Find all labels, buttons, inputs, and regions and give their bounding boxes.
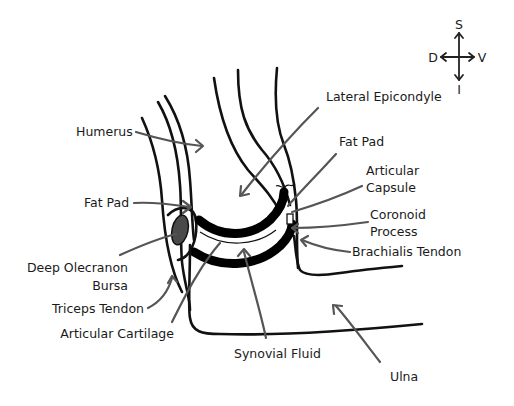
label-articular-capsule-line2: Capsule: [366, 180, 416, 195]
lateral-epicondyle-pointer: [242, 108, 318, 194]
label-lateral-epicondyle: Lateral Epicondyle: [326, 89, 442, 104]
label-triceps-tendon: Triceps Tendon: [51, 301, 144, 316]
compass-dorsal-label: D: [428, 50, 438, 65]
label-coronoid-process-line2: Process: [370, 224, 417, 239]
coronoid-process-pointer: [292, 222, 368, 228]
label-ulna: Ulna: [390, 369, 418, 384]
label-articular-capsule-line1: Articular: [366, 163, 420, 178]
deep-olecranon-bursa-shape: [169, 214, 191, 247]
humerus-outline-left: [214, 78, 280, 212]
label-synovial-fluid: Synovial Fluid: [234, 346, 321, 361]
label-coronoid-process-line1: Coronoid: [370, 207, 426, 222]
fat-pad-right-pointer: [288, 154, 336, 206]
compass-ventral-label: V: [478, 50, 487, 65]
compass: S I D V: [428, 17, 487, 97]
capsule-edge: [276, 184, 295, 187]
label-fat-pad-right: Fat Pad: [339, 134, 384, 149]
humerus-pointer: [136, 132, 202, 146]
compass-superior-label: S: [455, 17, 463, 32]
label-deep-olecranon-bursa-line1: Deep Olecranon: [27, 260, 128, 275]
label-fat-pad-left: Fat Pad: [84, 195, 129, 210]
label-articular-cartilage: Articular Cartilage: [60, 326, 174, 341]
diagram-canvas: S I D V: [0, 0, 514, 406]
label-deep-olecranon-bursa-line2: Bursa: [92, 278, 128, 293]
compass-inferior-label: I: [457, 82, 461, 97]
coronoid-process-shape: [287, 214, 293, 224]
ulna-pointer: [336, 306, 380, 362]
brachialis-tendon-pointer: [302, 240, 350, 252]
elbow-diagram: S I D V: [0, 0, 514, 406]
label-brachialis-tendon: Brachialis Tendon: [352, 244, 461, 259]
label-humerus: Humerus: [76, 124, 133, 139]
